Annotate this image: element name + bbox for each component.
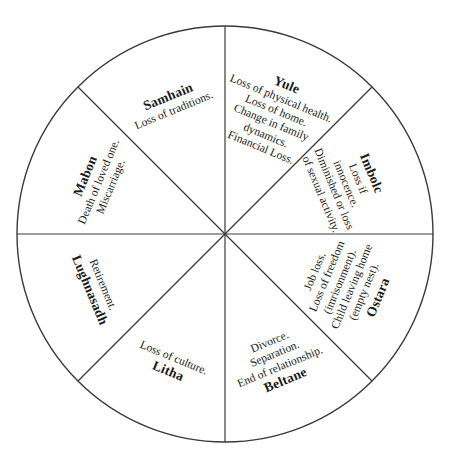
wedge-divider-lines xyxy=(17,26,433,442)
wheel-outline-svg xyxy=(0,0,451,465)
wheel-of-the-year-diagram: Yule Loss of physical health. Loss of ho… xyxy=(0,0,451,465)
